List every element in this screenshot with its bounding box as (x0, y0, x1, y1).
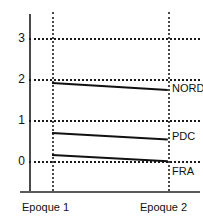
series-line-pdc (52, 132, 168, 141)
gridline-2 (29, 79, 200, 81)
series-line-nord (52, 82, 168, 91)
y-tick-label-0: 0 (5, 155, 25, 167)
gridline-1 (29, 120, 200, 122)
line-chart: 3 2 1 0 NORD PDC FRA Epoque 1 Epoque 2 (0, 0, 203, 220)
series-label-pdc: PDC (172, 131, 195, 142)
y-axis (29, 14, 31, 192)
x-axis (20, 191, 200, 193)
series-label-nord: NORD (172, 83, 203, 94)
gridline-3 (29, 38, 200, 40)
y-tick-label-3: 3 (5, 32, 25, 44)
gridline-0 (29, 161, 200, 163)
y-tick-label-2: 2 (5, 73, 25, 85)
x-tick-label-epoque-1: Epoque 1 (22, 201, 69, 213)
epoch-line-2 (168, 12, 170, 191)
epoch-line-1 (52, 12, 54, 191)
y-tick-label-1: 1 (5, 114, 25, 126)
series-label-fra: FRA (172, 166, 194, 177)
x-tick-label-epoque-2: Epoque 2 (140, 201, 187, 213)
